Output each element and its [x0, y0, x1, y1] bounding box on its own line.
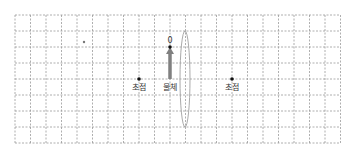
object-arrow	[166, 45, 174, 79]
convex-lens-diagram: 0 초점 물체 초점	[0, 0, 350, 153]
focal-label-right: 초점	[225, 82, 239, 92]
object-label: 물체	[163, 82, 177, 92]
object-top-point	[168, 45, 172, 49]
focal-label-left: 초점	[132, 82, 146, 92]
stray-dot	[83, 41, 85, 43]
object-top-marker: 0	[167, 36, 172, 45]
focal-point-left	[137, 77, 141, 81]
dashed-grid	[15, 15, 341, 143]
focal-point-right	[230, 77, 234, 81]
